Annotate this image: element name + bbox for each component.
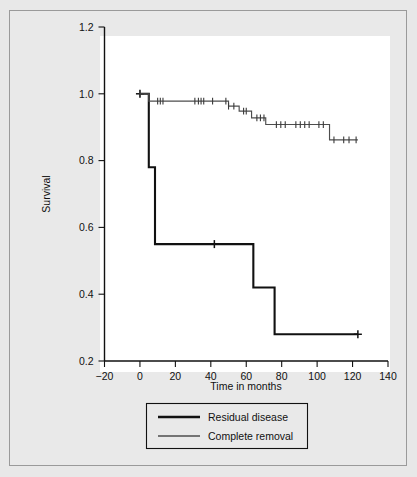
- x-tick-label: 120: [344, 370, 362, 382]
- x-axis-ticks: [105, 361, 389, 367]
- y-axis-ticks: [99, 27, 105, 361]
- legend-label-complete-removal: Complete removal: [208, 430, 293, 442]
- y-axis-tick-labels: 0.20.40.60.81.01.2: [79, 21, 94, 367]
- y-tick-label: 0.6: [79, 221, 94, 233]
- curve-residual: [140, 94, 358, 334]
- y-axis-title: Survival: [40, 175, 52, 212]
- x-axis-title: Time in months: [210, 380, 281, 392]
- series-residual: [136, 90, 362, 338]
- legend: Residual disease Complete removal: [147, 404, 308, 449]
- curve-complete: [140, 94, 358, 140]
- figure-root: 0.20.40.60.81.01.2 −20020406080100120140…: [0, 0, 417, 477]
- axes-group: [105, 27, 389, 361]
- legend-label-residual-disease: Residual disease: [208, 411, 288, 423]
- y-tick-label: 0.8: [79, 154, 94, 166]
- y-tick-label: 1.2: [79, 21, 94, 33]
- series-complete: [140, 90, 358, 143]
- x-tick-label: 20: [170, 370, 182, 382]
- x-tick-label: 0: [137, 370, 143, 382]
- y-tick-label: 0.4: [79, 288, 94, 300]
- y-tick-label: 0.2: [79, 355, 94, 367]
- series-layer: [136, 90, 362, 338]
- kaplan-meier-survival-chart: 0.20.40.60.81.01.2 −20020406080100120140…: [0, 0, 417, 477]
- x-tick-label: 100: [308, 370, 326, 382]
- x-tick-label: 140: [379, 370, 397, 382]
- x-tick-label: −20: [96, 370, 114, 382]
- y-tick-label: 1.0: [79, 88, 94, 100]
